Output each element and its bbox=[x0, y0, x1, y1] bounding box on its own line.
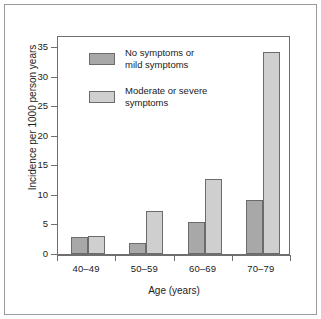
figure-container: No symptoms or mild symptomsModerate or … bbox=[0, 0, 321, 319]
bar-50-59-series-1 bbox=[129, 243, 146, 254]
y-axis-line bbox=[57, 36, 58, 256]
x-axis-label-60-69: 60–69 bbox=[174, 263, 232, 274]
x-axis-label-40-49: 40–49 bbox=[57, 263, 115, 274]
x-axis-title: Age (years) bbox=[57, 285, 291, 296]
y-tick-35 bbox=[51, 47, 57, 48]
y-tick-25 bbox=[51, 106, 57, 107]
legend-label-1: No symptoms or mild symptoms bbox=[125, 47, 194, 70]
y-tick-30 bbox=[51, 77, 57, 78]
y-tick-0 bbox=[51, 254, 57, 255]
bar-60-69-series-1 bbox=[188, 222, 205, 254]
y-tick-10 bbox=[51, 195, 57, 196]
legend-swatch-1 bbox=[89, 53, 115, 65]
y-tick-15 bbox=[51, 165, 57, 166]
x-tick-1 bbox=[115, 256, 116, 261]
bar-70-79-series-1 bbox=[246, 200, 263, 254]
y-tick-5 bbox=[51, 224, 57, 225]
bar-40-49-series-2 bbox=[88, 236, 105, 254]
x-tick-4 bbox=[290, 256, 291, 261]
y-axis-title: Incidence per 1000 person years bbox=[27, 18, 38, 218]
legend-label-2: Moderate or severe symptoms bbox=[125, 85, 207, 108]
x-tick-0 bbox=[57, 256, 58, 261]
bar-50-59-series-2 bbox=[146, 211, 163, 254]
x-tick-3 bbox=[232, 256, 233, 261]
plot-area: No symptoms or mild symptomsModerate or … bbox=[57, 36, 290, 255]
bar-40-49-series-1 bbox=[71, 237, 88, 254]
x-axis-label-50-59: 50–59 bbox=[115, 263, 173, 274]
bar-70-79-series-2 bbox=[263, 52, 280, 254]
legend-swatch-2 bbox=[89, 91, 115, 103]
legend-item-1: No symptoms or mild symptoms bbox=[89, 48, 239, 86]
chart-legend: No symptoms or mild symptomsModerate or … bbox=[89, 48, 239, 124]
y-tick-label-5: 5 bbox=[18, 218, 48, 229]
bar-60-69-series-2 bbox=[205, 179, 222, 254]
y-tick-label-0: 0 bbox=[18, 248, 48, 259]
x-axis-label-70-79: 70–79 bbox=[232, 263, 290, 274]
x-tick-2 bbox=[174, 256, 175, 261]
y-tick-20 bbox=[51, 136, 57, 137]
legend-item-2: Moderate or severe symptoms bbox=[89, 86, 239, 124]
